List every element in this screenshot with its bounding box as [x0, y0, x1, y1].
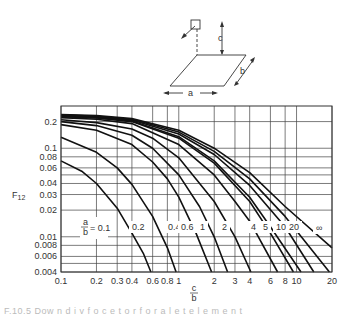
figure: c b a 0.10.20.30.40.60.81234681020 0.20.…	[0, 0, 349, 318]
y-tick: 0.06	[39, 163, 57, 173]
x-tick: 6	[268, 276, 273, 286]
svg-text:= 0.1: = 0.1	[90, 223, 110, 233]
svg-text:∞: ∞	[316, 223, 322, 233]
x-tick: 0.6	[146, 276, 159, 286]
x-tick: 0.2	[90, 276, 103, 286]
x-axis-label: c b	[190, 283, 198, 303]
curve-label: ∞	[313, 222, 324, 234]
y-tick: 0.08	[39, 152, 57, 162]
x-tick: 4	[247, 276, 252, 286]
svg-text:b: b	[191, 293, 196, 303]
y-axis-label: F12	[12, 190, 25, 201]
rectangle-surface	[170, 55, 246, 86]
curve	[61, 137, 176, 272]
x-tick: 20	[327, 276, 337, 286]
figure-caption: F.10.5 Dow n d i v f o c e t o r f o r a…	[4, 306, 243, 316]
curve	[61, 115, 314, 272]
svg-text:4: 4	[251, 222, 256, 232]
x-tick: 0.4	[126, 276, 139, 286]
x-tick: 10	[292, 276, 302, 286]
curve-label: 20	[286, 221, 302, 233]
curve-label: 4	[248, 221, 259, 233]
x-tick: 1	[176, 276, 181, 286]
label-b: b	[240, 66, 245, 76]
curve	[61, 120, 251, 272]
x-tick: 0.8	[161, 276, 174, 286]
label-a: a	[188, 88, 193, 98]
curve	[61, 161, 151, 272]
x-tick: 8	[283, 276, 288, 286]
svg-text:b: b	[83, 227, 88, 237]
svg-text:0.6: 0.6	[181, 222, 194, 232]
differential-element-icon	[191, 20, 200, 29]
svg-text:c: c	[192, 283, 197, 293]
x-tick: 3	[232, 276, 237, 286]
svg-text:2: 2	[222, 222, 227, 232]
curve-label: 0.6	[178, 221, 199, 233]
svg-text:10: 10	[276, 222, 286, 232]
svg-text:0.2: 0.2	[132, 222, 145, 232]
x-tick: 2	[212, 276, 217, 286]
curve-label: 1	[197, 221, 208, 233]
x-tick: 0.3	[111, 276, 124, 286]
svg-text:5: 5	[263, 222, 268, 232]
y-tick: 0.2	[44, 117, 57, 127]
plot-curves	[61, 115, 332, 272]
y-tick: 0.02	[39, 205, 57, 215]
y-tick: 0.004	[34, 267, 57, 277]
curve-label: 0.2	[129, 221, 150, 233]
geometry-diagram	[163, 20, 255, 95]
curve-label: ab= 0.1	[80, 217, 110, 239]
curve-label: 2	[219, 221, 230, 233]
svg-text:20: 20	[289, 222, 299, 232]
x-tick: 0.1	[55, 276, 68, 286]
y-tick: 0.04	[39, 178, 57, 188]
y-tick-labels: 0.20.10.080.060.040.030.020.010.0080.006…	[34, 117, 57, 277]
curve-label: 5	[260, 221, 271, 233]
svg-text:a: a	[83, 217, 88, 227]
y-tick: 0.008	[34, 240, 57, 250]
y-tick: 0.006	[34, 251, 57, 261]
y-tick: 0.03	[39, 190, 57, 200]
svg-text:1: 1	[200, 222, 205, 232]
label-c: c	[218, 33, 223, 43]
